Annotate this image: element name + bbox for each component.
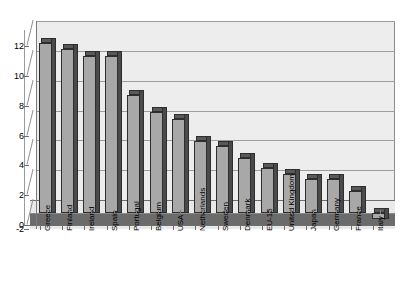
x-tick-label-greece: Greece: [44, 205, 52, 231]
x-tick-label-belgium: Belgium: [155, 202, 163, 231]
y-tick-mark: [24, 46, 29, 47]
x-tick-mark-back: [291, 210, 292, 214]
x-tick-label-japan: Japan: [310, 209, 318, 231]
x-tick-label-usa: USA: [177, 215, 185, 231]
x-tick-mark-back: [313, 210, 314, 214]
x-tick-mark: [129, 225, 130, 230]
x-tick-mark-back: [136, 210, 137, 214]
x-tick-label-france: France: [355, 206, 363, 231]
x-tick-mark: [351, 225, 352, 230]
x-tick-label-finland: Finland: [66, 205, 74, 231]
x-tick-mark: [218, 225, 219, 230]
x-tick-label-germany: Germany: [333, 198, 341, 231]
y-tick-mark: [24, 195, 29, 196]
x-tick-mark-back: [47, 210, 48, 214]
x-tick-mark: [107, 225, 108, 230]
x-tick-label-ireland: Ireland: [88, 207, 96, 231]
x-tick-label-netherlands: Netherlands: [199, 188, 207, 231]
y-tick-mark: [24, 106, 29, 107]
x-tick-mark-back: [202, 210, 203, 214]
x-tick-mark: [40, 225, 41, 230]
y-tick-mark: [24, 165, 29, 166]
x-tick-mark: [173, 225, 174, 230]
x-tick-mark-back: [336, 210, 337, 214]
x-tick-label-sweden: Sweden: [222, 202, 230, 231]
x-axis-labels: GreeceFinlandIrelandSpainPortugalBelgium…: [0, 0, 412, 303]
x-tick-mark: [329, 225, 330, 230]
x-tick-mark: [151, 225, 152, 230]
x-tick-mark: [284, 225, 285, 230]
y-tick-mark: [24, 225, 29, 226]
x-tick-mark-back: [247, 210, 248, 214]
x-tick-mark-back: [225, 210, 226, 214]
bar-chart: -2024681012 GreeceFinlandIrelandSpainPor…: [0, 0, 412, 303]
x-tick-mark: [240, 225, 241, 230]
x-tick-label-italy: Italy: [377, 216, 385, 231]
x-tick-mark-back: [114, 210, 115, 214]
y-tick-mark: [24, 76, 29, 77]
x-tick-mark: [306, 225, 307, 230]
x-tick-label-spain: Spain: [111, 211, 119, 231]
y-tick-mark: [24, 136, 29, 137]
x-tick-mark-back: [69, 210, 70, 214]
x-tick-mark: [195, 225, 196, 230]
x-tick-mark-back: [358, 210, 359, 214]
x-tick-mark: [62, 225, 63, 230]
x-tick-mark: [84, 225, 85, 230]
x-tick-mark-back: [158, 210, 159, 214]
x-tick-label-portugal: Portugal: [133, 201, 141, 231]
x-tick-mark-back: [269, 210, 270, 214]
x-tick-mark-back: [180, 210, 181, 214]
x-tick-mark: [262, 225, 263, 230]
x-tick-label-united-kingdom: United Kingdom: [288, 174, 296, 231]
y-tick-mark: [24, 229, 29, 230]
x-tick-label-eu-15: EU-15: [266, 208, 274, 231]
x-tick-label-denmark: Denmark: [244, 199, 252, 231]
x-tick-mark-back: [91, 210, 92, 214]
x-tick-mark: [373, 225, 374, 230]
x-tick-mark-back: [380, 210, 381, 214]
